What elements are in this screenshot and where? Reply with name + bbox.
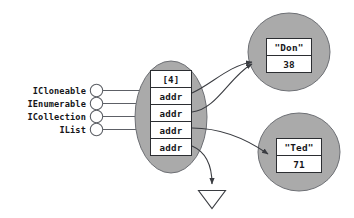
object-box-ted: "Ted" 71 [277,139,322,173]
interface-label-ienumerable: IEnumerable [27,99,86,109]
interface-lollipops [90,84,102,135]
array-cell-3-label: addr [160,142,183,153]
interface-connector-lines [103,91,140,130]
lollipop-icollection[interactable] [90,110,102,122]
lollipop-ilist[interactable] [90,123,102,135]
null-triangle-icon [199,191,226,209]
pointer-arrow-cell0-to-don [192,62,252,93]
interface-label-ilist: IList [59,125,86,135]
interface-label-icloneable: ICloneable [33,86,86,96]
object-don-value-label: 38 [283,59,295,70]
object-box-don: "Don" 38 [267,39,312,73]
lollipop-icloneable[interactable] [90,84,102,96]
object-don-name-label: "Don" [274,42,303,53]
diagram-canvas: ICloneable IEnumerable ICollection IList… [0,0,354,218]
array-header-label: [4] [162,74,179,85]
lollipop-ienumerable[interactable] [90,97,102,109]
array-cell-1-label: addr [160,108,183,119]
object-ted-value-label: 71 [293,159,305,170]
interface-label-icollection: ICollection [27,112,86,122]
array-cell-0-label: addr [160,91,183,102]
array-cell-2-label: addr [160,125,183,136]
object-ted-name-label: "Ted" [284,142,313,153]
object-diagram: ICloneable IEnumerable ICollection IList… [0,0,354,218]
interface-labels: ICloneable IEnumerable ICollection IList [27,86,86,135]
array-cells: [4] addr addr addr addr [151,71,192,156]
